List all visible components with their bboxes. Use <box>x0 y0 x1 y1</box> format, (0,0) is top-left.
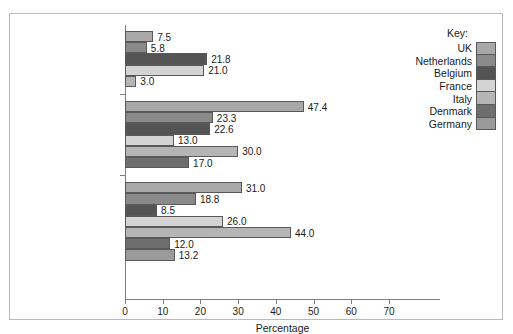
bar <box>125 146 238 157</box>
bar-value-label: 12.0 <box>174 238 193 249</box>
x-axis-tick <box>314 299 315 304</box>
bar <box>125 123 210 134</box>
legend-item: Denmark <box>388 105 496 118</box>
x-axis-tick-label: 30 <box>233 306 244 317</box>
x-axis-tick-label: 50 <box>308 306 319 317</box>
bar-value-label: 26.0 <box>227 216 246 227</box>
x-axis-tick-label: 40 <box>270 306 281 317</box>
legend-item: Netherlands <box>388 55 496 68</box>
bar <box>125 249 175 260</box>
bar <box>125 135 174 146</box>
bar-value-label: 21.0 <box>208 65 227 76</box>
bar <box>125 31 153 42</box>
legend-item-label: Denmark <box>429 105 476 117</box>
bar <box>125 112 213 123</box>
legend-item-label: Germany <box>429 118 476 130</box>
x-axis-tick-label: 10 <box>157 306 168 317</box>
legend-item: Germany <box>388 118 496 131</box>
x-axis-tick <box>125 299 126 304</box>
bar-value-label: 17.0 <box>193 157 212 168</box>
x-axis-tick <box>200 299 201 304</box>
legend-item-label: Italy <box>453 93 476 105</box>
bar-value-label: 5.8 <box>151 42 165 53</box>
bar-value-label: 18.8 <box>200 194 219 205</box>
y-axis-tick <box>120 94 125 95</box>
legend-title: Key: <box>388 27 496 39</box>
legend-item: France <box>388 80 496 93</box>
bar <box>125 65 204 76</box>
x-axis-line <box>125 299 440 300</box>
x-axis-tick <box>389 299 390 304</box>
bar-value-label: 47.4 <box>308 101 327 112</box>
legend-item-label: UK <box>457 42 476 54</box>
bar <box>125 216 223 227</box>
bar <box>125 157 189 168</box>
legend-items: UKNetherlandsBelgiumFranceItalyDenmarkGe… <box>388 42 496 130</box>
bar-value-label: 13.2 <box>179 250 198 261</box>
legend-color-swatch <box>476 67 496 80</box>
x-axis-tick-label: 70 <box>383 306 394 317</box>
x-axis-tick <box>238 299 239 304</box>
legend-color-swatch <box>476 118 496 131</box>
x-axis-title: Percentage <box>125 322 440 334</box>
chart-figure: 010203040506070 7.55.821.821.03.047.423.… <box>9 13 503 320</box>
legend-color-swatch <box>476 80 496 93</box>
x-axis-tick <box>276 299 277 304</box>
legend: Key: UKNetherlandsBelgiumFranceItalyDenm… <box>388 27 496 130</box>
bar-value-label: 31.0 <box>246 182 265 193</box>
bar <box>125 53 207 64</box>
bar-value-label: 23.3 <box>217 112 236 123</box>
bar <box>125 76 136 87</box>
x-axis-tick-label: 60 <box>346 306 357 317</box>
bar-value-label: 30.0 <box>242 146 261 157</box>
bar <box>125 42 147 53</box>
x-axis-tick-label: 0 <box>122 306 128 317</box>
bar <box>125 205 157 216</box>
legend-color-swatch <box>476 42 496 55</box>
plot-area: 010203040506070 7.55.821.821.03.047.423.… <box>125 25 389 299</box>
legend-item-label: Netherlands <box>415 55 476 67</box>
y-axis-tick <box>120 175 125 176</box>
bar-value-label: 22.6 <box>214 124 233 135</box>
bar <box>125 101 304 112</box>
legend-item: UK <box>388 42 496 55</box>
bar <box>125 182 242 193</box>
bar-value-label: 7.5 <box>157 31 171 42</box>
legend-item: Italy <box>388 92 496 105</box>
legend-color-swatch <box>476 92 496 105</box>
bar-value-label: 21.8 <box>211 54 230 65</box>
legend-item: Belgium <box>388 67 496 80</box>
legend-item-label: Belgium <box>434 67 476 79</box>
legend-color-swatch <box>476 105 496 118</box>
bar-value-label: 44.0 <box>295 227 314 238</box>
legend-item-label: France <box>439 80 476 92</box>
bar-value-label: 13.0 <box>178 135 197 146</box>
bar-value-label: 8.5 <box>161 205 175 216</box>
x-axis-tick-label: 20 <box>195 306 206 317</box>
bar <box>125 238 170 249</box>
legend-color-swatch <box>476 55 496 68</box>
bar <box>125 193 196 204</box>
x-axis-tick <box>351 299 352 304</box>
x-axis-tick <box>163 299 164 304</box>
bar-value-label: 3.0 <box>140 76 154 87</box>
bar <box>125 227 291 238</box>
